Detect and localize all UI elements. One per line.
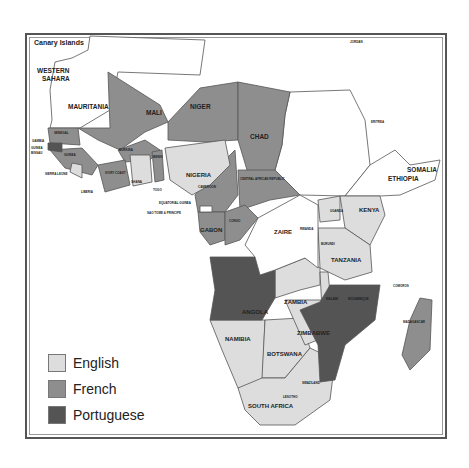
label-kenya: KENYA	[359, 207, 380, 213]
map-legend: English French Portuguese	[48, 350, 145, 428]
label-guinea: GUINEA	[64, 153, 77, 157]
label-liberia: LIBERIA	[81, 190, 94, 194]
sierra-leone	[70, 163, 82, 178]
label-canary-islands: Canary Islands	[34, 39, 84, 47]
namibia	[210, 320, 265, 390]
label-burkina: BURKINA	[119, 148, 134, 152]
legend-swatch-portuguese	[48, 406, 66, 424]
sudan-region	[275, 90, 370, 196]
label-niger: NIGER	[190, 103, 211, 110]
label-togo: TOGO	[153, 188, 162, 192]
label-benin: BENIN	[153, 155, 162, 159]
label-western-sahara: WESTERN	[37, 67, 70, 74]
label-congo: CONGO	[229, 219, 241, 223]
label-guinea-bissau: GUINEA	[31, 146, 44, 150]
label-jordan: JORDAN	[350, 40, 363, 44]
label-south-africa: SOUTH AFRICA	[248, 403, 294, 409]
legend-item-portuguese: Portuguese	[48, 402, 145, 428]
label-somalia: SOMALIA	[407, 166, 437, 173]
label-mauritania: MAURITANIA	[68, 103, 109, 110]
label-ghana: GHANA	[131, 180, 143, 184]
label-cameroon: CAMEROON	[198, 185, 216, 189]
legend-item-english: English	[48, 350, 145, 376]
label-burundi: BURUNDI	[321, 242, 335, 246]
label-zaire: ZAIRE	[274, 229, 292, 235]
label-angola: ANGOLA	[242, 309, 269, 315]
legend-swatch-french	[48, 380, 66, 398]
label-zimbabwe: ZIMBABWE	[297, 330, 330, 336]
label-eritrea: ERITREA	[371, 120, 385, 124]
label-swaziland: SWAZILAND	[302, 381, 321, 385]
legend-label-portuguese: Portuguese	[73, 407, 145, 423]
legend-swatch-english	[48, 354, 66, 372]
label-mozambique: MOZAMBIQUE	[348, 297, 369, 301]
label-chad: CHAD	[250, 133, 269, 140]
label-mali: MALI	[146, 109, 162, 116]
label-madagascar: MADAGASCAR	[403, 320, 426, 324]
label-namibia: NAMIBIA	[225, 336, 251, 342]
label-ivory-coast: IVORY COAST	[105, 171, 126, 175]
label-nigeria: NIGERIA	[186, 172, 212, 178]
label-malawi: MALAWI	[326, 297, 338, 301]
label-uganda: UGANDA	[330, 209, 344, 213]
label-gambia: GAMBIA	[32, 139, 45, 143]
niger	[168, 82, 238, 142]
label-sao-tome: SAO TOME & PRINCIPE	[147, 211, 181, 215]
legend-label-french: French	[73, 381, 117, 397]
label-central-african-republic: CENTRAL AFRICAN REPUBLIC	[240, 177, 285, 181]
label-zambia: ZAMBIA	[284, 299, 308, 305]
ivory-coast	[98, 160, 130, 192]
legend-label-english: English	[73, 355, 119, 371]
label-equatorial-guinea: EQUATORIAL GUINEA	[159, 201, 192, 205]
label-senegal: SENEGAL	[54, 131, 69, 135]
legend-item-french: French	[48, 376, 145, 402]
label-sierra-leone: SIERRA LEONE	[45, 172, 67, 176]
label-rwanda: RWANDA	[300, 227, 314, 231]
label-gabon: GABON	[200, 227, 222, 233]
label-tanzania: TANZANIA	[331, 257, 362, 263]
label-western-sahara-2: SAHARA	[42, 75, 70, 82]
equatorial-guinea	[200, 206, 212, 212]
label-ethiopia: ETHIOPIA	[388, 175, 419, 182]
guinea-bissau	[48, 143, 62, 152]
madagascar	[402, 298, 432, 370]
label-comoros: COMOROS	[393, 284, 409, 288]
label-botswana: BOTSWANA	[267, 351, 303, 357]
label-lesotho: LESOTHO	[283, 395, 298, 399]
label-guinea-bissau-2: BISSAU	[31, 151, 42, 155]
